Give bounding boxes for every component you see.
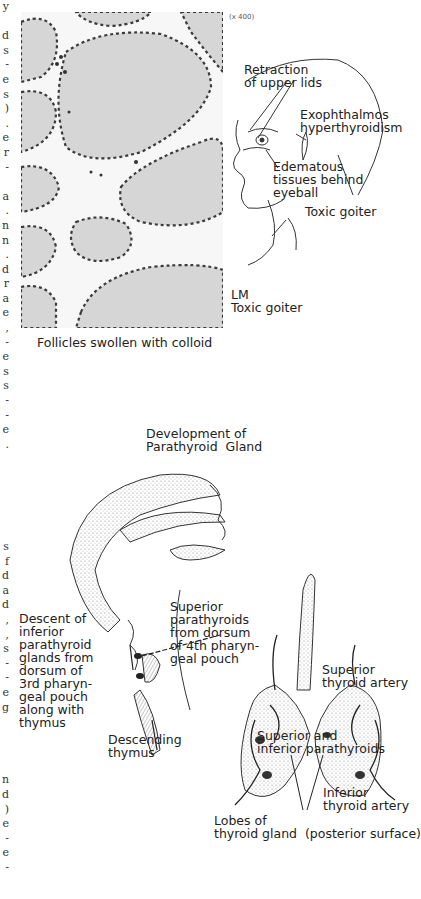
label-superior-thyroid-artery: Superior thyroid artery: [322, 663, 408, 689]
margin-fragment-char: d: [0, 263, 9, 278]
margin-fragment-char: y: [0, 0, 9, 15]
margin-fragment-char: -: [0, 161, 9, 176]
margin-fragment-char: .: [0, 248, 9, 263]
margin-fragment-char: ,: [0, 321, 9, 336]
margin-fragment-char: [0, 511, 9, 526]
adjacent-column-fragment: y ds-es).er- a.nn.drae,-ess--e. sfdad,,s…: [0, 0, 12, 899]
margin-fragment-char: e: [0, 350, 9, 365]
margin-fragment-char: e: [0, 131, 9, 146]
margin-fragment-char: n: [0, 234, 9, 249]
margin-fragment-char: e: [0, 817, 9, 832]
margin-fragment-char: e: [0, 306, 9, 321]
margin-fragment-char: -: [0, 394, 9, 409]
margin-fragment-char: s: [0, 365, 9, 380]
margin-fragment-char: -: [0, 832, 9, 847]
margin-fragment-char: -: [0, 58, 9, 73]
margin-fragment-char: e: [0, 686, 9, 701]
magnification-label: (x 400): [229, 13, 254, 21]
margin-fragment-char: -: [0, 409, 9, 424]
margin-fragment-char: e: [0, 846, 9, 861]
label-lobes-thyroid-gland: Lobes of thyroid gland (posterior surfac…: [214, 814, 421, 840]
margin-fragment-char: -: [0, 671, 9, 686]
margin-fragment-char: -: [0, 657, 9, 672]
margin-fragment-char: r: [0, 277, 9, 292]
development-title-line2: Parathyroid Gland: [146, 440, 262, 453]
label-descent-inferior-parathyroid: Descent of inferior parathyroid glands f…: [19, 612, 94, 729]
margin-fragment-char: [0, 525, 9, 540]
label-toxic-goiter-arrow: Toxic goiter: [305, 205, 376, 218]
margin-fragment-char: r: [0, 146, 9, 161]
margin-fragment-char: .: [0, 438, 9, 453]
margin-fragment-char: d: [0, 788, 9, 803]
margin-fragment-char: e: [0, 73, 9, 88]
margin-fragment-char: f: [0, 555, 9, 570]
label-superior-inferior-parathyroids: Superior and inferior parathyroids: [257, 729, 385, 755]
margin-fragment-char: [0, 15, 9, 30]
margin-fragment-char: n: [0, 773, 9, 788]
margin-fragment-char: [0, 482, 9, 497]
label-inferior-thyroid-artery: Inferior thyroid artery: [323, 786, 409, 812]
label-exophthalmos: Exophthalmos hyperthyroidism: [300, 108, 402, 134]
margin-fragment-char: s: [0, 44, 9, 59]
label-descending-thymus: Descending thymus: [108, 733, 182, 759]
label-edematous-tissues: Edematous tissues behind eyeball: [273, 160, 363, 199]
margin-fragment-char: a: [0, 584, 9, 599]
margin-fragment-char: s: [0, 379, 9, 394]
margin-fragment-char: e: [0, 423, 9, 438]
margin-fragment-char: [0, 496, 9, 511]
margin-fragment-char: [0, 467, 9, 482]
margin-fragment-char: ): [0, 102, 9, 117]
micrograph-image: [21, 12, 223, 328]
label-retraction-upper-lids: Retraction of upper lids: [244, 63, 322, 89]
margin-fragment-char: .: [0, 204, 9, 219]
stain-label-diagnosis: Toxic goiter: [231, 301, 302, 314]
margin-fragment-char: ,: [0, 613, 9, 628]
margin-fragment-char: ): [0, 803, 9, 818]
margin-fragment-char: d: [0, 598, 9, 613]
micrograph-caption: Follicles swollen with colloid: [37, 335, 212, 350]
margin-fragment-char: s: [0, 642, 9, 657]
margin-fragment-char: s: [0, 88, 9, 103]
margin-fragment-char: d: [0, 569, 9, 584]
margin-fragment-char: n: [0, 219, 9, 234]
margin-fragment-char: a: [0, 190, 9, 205]
margin-fragment-char: a: [0, 292, 9, 307]
follicle-micrograph-illustration: [21, 12, 223, 328]
margin-fragment-char: [0, 175, 9, 190]
margin-fragment-char: [0, 744, 9, 759]
margin-fragment-char: -: [0, 861, 9, 876]
margin-fragment-char: [0, 759, 9, 774]
margin-fragment-char: s: [0, 540, 9, 555]
margin-fragment-char: .: [0, 117, 9, 132]
margin-fragment-char: g: [0, 701, 9, 716]
margin-fragment-char: [0, 452, 9, 467]
margin-fragment-char: -: [0, 336, 9, 351]
margin-fragment-char: d: [0, 29, 9, 44]
margin-fragment-char: [0, 730, 9, 745]
margin-fragment-char: ,: [0, 628, 9, 643]
margin-fragment-char: [0, 715, 9, 730]
